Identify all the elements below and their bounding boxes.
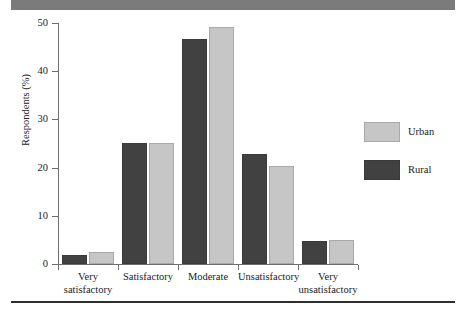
x-axis-line [58, 264, 358, 265]
legend-swatch-urban [364, 122, 400, 142]
bar-urban-2 [209, 27, 234, 264]
bar-rural-2 [182, 39, 207, 264]
bar-rural-3 [242, 154, 267, 264]
y-axis-tick-label: 0 [43, 257, 48, 270]
bar-rural-4 [302, 241, 327, 264]
bar-rural-0 [62, 255, 87, 264]
x-axis-tick [358, 265, 359, 270]
legend-swatch-rural [364, 160, 400, 180]
x-axis-category-label: Satisfactory [118, 270, 178, 283]
plot-area [58, 23, 358, 264]
top-banner-bar [11, 0, 455, 10]
y-axis-tick-label: 10 [38, 209, 49, 222]
bars-layer [58, 23, 358, 264]
bar-urban-3 [269, 166, 294, 264]
bar-urban-1 [149, 143, 174, 264]
bar-urban-4 [329, 240, 354, 264]
y-axis-tick-label: 30 [38, 112, 49, 125]
x-axis-category-label: Veryunsatisfactory [298, 270, 358, 296]
figure: Respondents (%) 01020304050 Verysatisfac… [0, 0, 464, 312]
y-axis-tick-label: 20 [38, 161, 49, 174]
y-axis-title: Respondents (%) [20, 40, 32, 180]
bottom-rule [11, 301, 455, 303]
legend-label-urban: Urban [408, 125, 434, 139]
bar-rural-1 [122, 143, 147, 264]
y-axis-tick-label: 50 [38, 16, 49, 29]
x-axis-category-label: Verysatisfactory [58, 270, 118, 296]
legend-label-rural: Rural [408, 163, 431, 177]
x-axis-category-label: Unsatisfactory [238, 270, 298, 283]
bar-urban-0 [89, 252, 114, 264]
y-axis-tick-label: 40 [38, 64, 49, 77]
x-axis-category-label: Moderate [178, 270, 238, 283]
